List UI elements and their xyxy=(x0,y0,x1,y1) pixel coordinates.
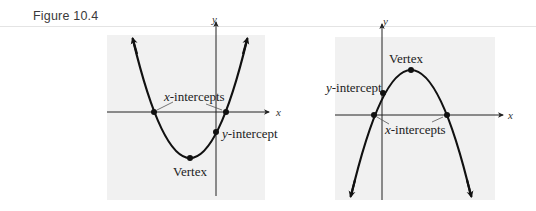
left-x-intercepts-label: x-intercepts xyxy=(163,89,225,104)
left-y-intercept-label: y-intercept xyxy=(220,126,278,141)
left-y-intercept-point xyxy=(213,129,219,135)
right-y-axis-label: y xyxy=(382,15,388,27)
right-x-axis-label: x xyxy=(507,109,513,121)
left-x-axis-label: x xyxy=(275,106,281,118)
figure-canvas: x y x-intercepts y-intercept Vertex x y xyxy=(0,0,536,211)
left-x-intercept-1 xyxy=(151,109,157,115)
right-x-intercepts-label: x-intercepts xyxy=(384,122,446,137)
left-vertex-label: Vertex xyxy=(173,164,207,179)
left-graph: x y x-intercepts y-intercept Vertex xyxy=(107,13,281,200)
right-y-intercept-label: y-intercept xyxy=(324,80,382,95)
right-x-intercept-2 xyxy=(444,112,450,118)
right-graph: x y Vertex y-intercept x-intercepts xyxy=(324,15,513,200)
left-vertex-point xyxy=(187,155,193,161)
left-x-intercept-2 xyxy=(223,109,229,115)
right-x-intercept-1 xyxy=(371,112,377,118)
right-vertex-label: Vertex xyxy=(389,51,423,66)
left-y-axis-label: y xyxy=(211,13,217,25)
right-vertex-point xyxy=(408,67,414,73)
